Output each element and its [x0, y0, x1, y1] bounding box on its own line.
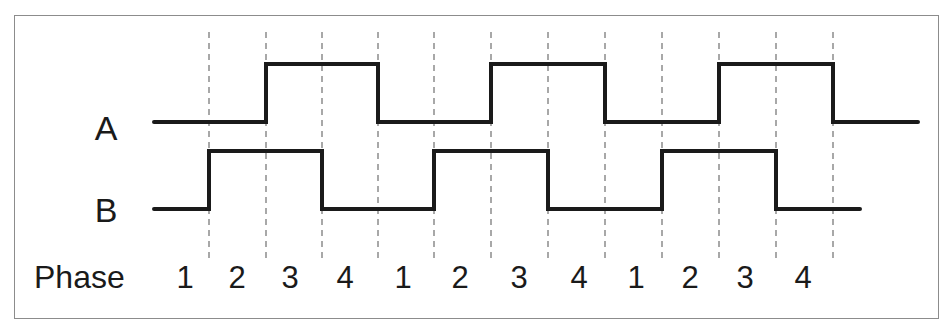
phase-number: 2 — [681, 260, 698, 295]
phase-number: 1 — [627, 260, 644, 295]
phase-number: 1 — [394, 260, 411, 295]
phase-number: 2 — [228, 260, 245, 295]
signal-b-waveform — [154, 151, 860, 209]
phase-numbers: 123412341234 — [176, 260, 811, 295]
signal-label-a: A — [95, 109, 118, 147]
phase-number: 3 — [281, 260, 298, 295]
phase-number: 4 — [794, 260, 811, 295]
phase-row-label: Phase — [34, 259, 125, 295]
signal-label-b: B — [95, 191, 118, 229]
phase-number: 3 — [736, 260, 753, 295]
phase-number: 4 — [336, 260, 353, 295]
timing-diagram: A B Phase 123412341234 — [0, 0, 952, 328]
phase-number: 4 — [570, 260, 587, 295]
phase-number: 2 — [451, 260, 468, 295]
phase-boundary-lines — [209, 32, 833, 262]
signal-waveforms — [154, 64, 918, 209]
phase-number: 3 — [510, 260, 527, 295]
phase-number: 1 — [176, 260, 193, 295]
signal-a-waveform — [154, 64, 918, 122]
